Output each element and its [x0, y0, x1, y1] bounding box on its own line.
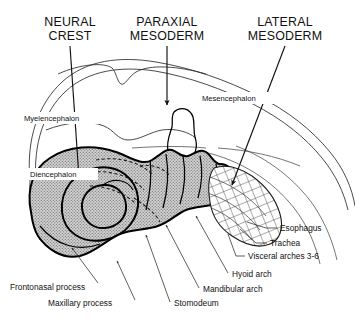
header-neural-crest-line2: CREST: [49, 29, 92, 43]
myelencephalon-label-text: Myelencephalon: [24, 114, 79, 123]
label-myelencephalon: Myelencephalon: [22, 112, 100, 124]
maxillary-process-label-text: Maxillary process: [48, 298, 112, 308]
diencephalon-label-text: Diencephalon: [30, 170, 76, 179]
header-lateral-mesoderm-line1: LATERAL: [257, 15, 313, 29]
label-diencephalon: Diencephalon: [28, 168, 98, 180]
header-neural-crest: NEURAL CREST: [44, 15, 95, 43]
callout-stomodeum: Stomodeum: [146, 235, 219, 308]
trachea-label-text: Trachea: [270, 238, 301, 248]
visceral-arches-label-text: Visceral arches 3-6: [248, 251, 319, 261]
header-lateral-mesoderm-line2: MESODERM: [248, 29, 323, 43]
header-paraxial-mesoderm-line1: PARAXIAL: [136, 15, 197, 29]
label-mesencephalon: Mesencephalon: [200, 92, 276, 104]
frontonasal-process-label-text: Frontonasal process: [10, 282, 85, 292]
hyoid-arch-label-text: Hyoid arch: [232, 269, 272, 279]
stomodeum-label-text: Stomodeum: [174, 298, 219, 308]
header-paraxial-mesoderm: PARAXIAL MESODERM: [130, 15, 205, 43]
header-paraxial-mesoderm-line2: MESODERM: [130, 29, 205, 43]
neural-crest-region: [30, 147, 237, 257]
header-neural-crest-line1: NEURAL: [44, 15, 95, 29]
esophagus-label-text: Esophagus: [280, 223, 322, 233]
diagram-canvas: NEURAL CREST PARAXIAL MESODERM LATERAL M…: [0, 0, 355, 321]
header-lateral-mesoderm: LATERAL MESODERM: [248, 15, 323, 43]
lateral-mesoderm-arrow: [232, 46, 285, 185]
mesencephalon-label-text: Mesencephalon: [202, 94, 256, 103]
lateral-mesoderm-fill: [209, 166, 282, 246]
embryo-head-diagram: NEURAL CREST PARAXIAL MESODERM LATERAL M…: [0, 0, 355, 321]
mandibular-arch-label-text: Mandibular arch: [203, 284, 263, 294]
lateral-mesoderm-region: [204, 166, 282, 246]
neural-crest-fill: [30, 147, 237, 257]
